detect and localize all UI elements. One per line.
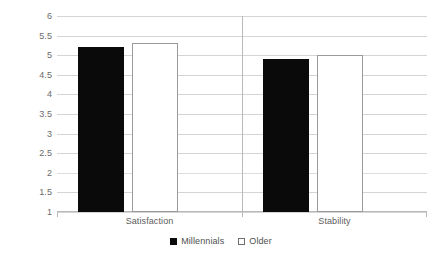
y-axis-tick-label: 6 — [4, 12, 52, 21]
y-axis-tick-label: 4.5 — [4, 71, 52, 80]
bar-millennials-satisfaction — [78, 47, 124, 212]
legend-swatch-icon — [170, 238, 177, 245]
y-axis-tick-label: 1.5 — [4, 188, 52, 197]
bar-older-stability — [317, 55, 363, 212]
x-axis: SatisfactionStability — [57, 216, 427, 232]
y-axis-tick-label: 4 — [4, 90, 52, 99]
bar-chart: 65.554.543.532.521.51 SatisfactionStabil… — [0, 0, 442, 262]
bar-millennials-stability — [263, 59, 309, 212]
x-axis-tick-label: Stability — [242, 216, 427, 227]
y-axis-tick-label: 5.5 — [4, 32, 52, 41]
legend-item-older[interactable]: Older — [238, 236, 272, 246]
y-axis-tick-label: 1 — [4, 208, 52, 217]
x-axis-tick-label: Satisfaction — [57, 216, 242, 227]
y-axis-tick-label: 3.5 — [4, 110, 52, 119]
legend-swatch-icon — [238, 238, 245, 245]
plot-area — [57, 16, 427, 212]
y-axis-tick-label: 5 — [4, 51, 52, 60]
y-axis: 65.554.543.532.521.51 — [0, 16, 52, 212]
legend-item-millennials[interactable]: Millennials — [170, 236, 224, 246]
y-axis-tick-label: 3 — [4, 130, 52, 139]
y-axis-tick-label: 2 — [4, 169, 52, 178]
bar-older-satisfaction — [132, 43, 178, 212]
legend-item-label: Older — [249, 236, 272, 246]
category-separator-tick — [242, 16, 243, 217]
legend-item-label: Millennials — [181, 236, 224, 246]
chart-legend: MillennialsOlder — [0, 236, 442, 246]
y-axis-tick-label: 2.5 — [4, 149, 52, 158]
